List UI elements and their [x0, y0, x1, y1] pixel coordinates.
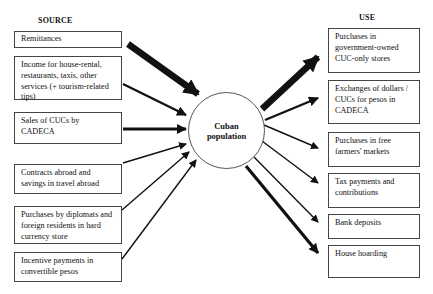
source-label: Purchases by diplomats and foreign resid… — [21, 210, 112, 241]
arrow-income — [123, 84, 186, 115]
use-label: Exchanges of dollars / CUCs for pesos in… — [335, 84, 408, 115]
source-label: Income for house-rental, restaurants, ta… — [21, 60, 109, 101]
use-label: Tax payments and contributions — [335, 177, 394, 197]
source-box-income: Income for house-rental, restaurants, ta… — [14, 56, 122, 100]
use-box-exchanges: Exchanges of dollars / CUCs for pesos in… — [328, 80, 420, 124]
arrow-farmers-markets — [264, 125, 318, 148]
source-box-diplomats: Purchases by diplomats and foreign resid… — [14, 206, 122, 244]
use-label: Purchases in government-owned CUC-only s… — [335, 32, 399, 63]
source-box-remittances: Remittances — [14, 31, 122, 48]
center-label-line2: population — [207, 131, 246, 141]
center-label-line1: Cuban — [207, 121, 246, 131]
source-label: Sales of CUCs by CADECA — [21, 116, 79, 136]
source-box-incentive: Incentive payments in convertible pesos — [14, 252, 122, 282]
source-label: Contracts abroad and savings in travel a… — [21, 168, 99, 188]
use-box-cuc-stores: Purchases in government-owned CUC-only s… — [328, 28, 420, 73]
use-box-tax-payments: Tax payments and contributions — [328, 173, 420, 208]
use-box-bank-deposits: Bank deposits — [328, 214, 420, 239]
cuban-population-node: Cuban population — [188, 92, 265, 169]
arrow-house-hoarding — [246, 166, 318, 253]
use-label: Bank deposits — [335, 218, 381, 227]
source-label: Remittances — [21, 34, 61, 43]
source-box-cadeca-sales: Sales of CUCs by CADECA — [14, 112, 122, 144]
use-box-house-hoarding: House hoarding — [328, 245, 420, 278]
arrow-tax-payments — [262, 141, 318, 183]
source-label: Incentive payments in convertible pesos — [21, 256, 93, 276]
source-box-contracts-abroad: Contracts abroad and savings in travel a… — [14, 164, 122, 194]
arrow-remittances — [128, 44, 198, 94]
use-box-farmers-markets: Purchases in free farmers' markets — [328, 132, 420, 167]
arrow-contracts-abroad — [123, 144, 186, 163]
use-label: Purchases in free farmers' markets — [335, 136, 391, 156]
use-label: House hoarding — [335, 249, 387, 258]
arrow-incentive — [122, 160, 196, 259]
